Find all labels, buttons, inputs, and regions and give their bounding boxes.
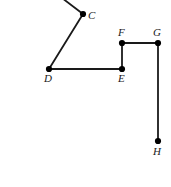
vertex-label-e: E xyxy=(118,73,125,84)
vertex-label-c: C xyxy=(88,10,95,21)
vertex-point-f xyxy=(119,40,125,46)
vertex-label-g: G xyxy=(153,27,161,38)
vertices-group xyxy=(46,11,161,144)
seg-C-D xyxy=(49,14,83,69)
vertex-point-h xyxy=(155,138,161,144)
geometry-figure: CDEFGH xyxy=(0,0,171,187)
vertex-label-f: F xyxy=(118,27,125,38)
seg-top-to-C xyxy=(62,0,83,14)
segments-group xyxy=(49,0,158,141)
figure-svg xyxy=(0,0,171,187)
vertex-point-c xyxy=(80,11,86,17)
vertex-point-g xyxy=(155,40,161,46)
vertex-label-h: H xyxy=(153,146,161,157)
vertex-label-d: D xyxy=(44,73,52,84)
